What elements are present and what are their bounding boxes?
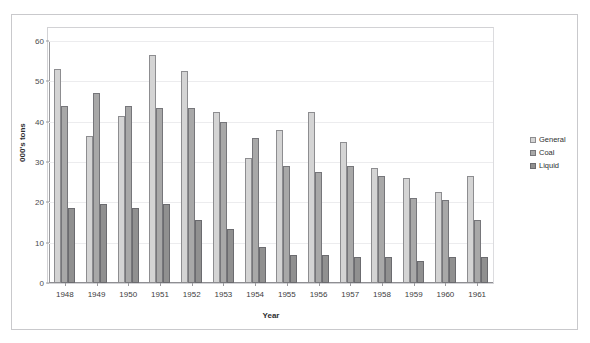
bar-general-1959[interactable]: [403, 178, 410, 283]
bar-group-bars: [303, 41, 335, 283]
bar-liquid-1960[interactable]: [449, 257, 456, 283]
legend-swatch-icon-liquid: [530, 163, 536, 169]
bar-general-1956[interactable]: [308, 112, 315, 283]
bar-general-1957[interactable]: [340, 142, 347, 283]
y-tick-label: 30: [35, 158, 44, 167]
chart-legend: GeneralCoalLiquid: [527, 131, 575, 174]
x-tick-mark: [192, 283, 193, 286]
bar-coal-1961[interactable]: [474, 220, 481, 283]
bar-coal-1955[interactable]: [283, 166, 290, 283]
x-tick-label-1954: 1954: [246, 290, 264, 299]
x-tick-mark: [128, 283, 129, 286]
bar-general-1955[interactable]: [276, 130, 283, 283]
bar-coal-1957[interactable]: [347, 166, 354, 283]
bar-coal-1952[interactable]: [188, 108, 195, 283]
bar-group-bars: [239, 41, 271, 283]
x-tick-label-1955: 1955: [278, 290, 296, 299]
x-tick-mark: [65, 283, 66, 286]
bar-coal-1948[interactable]: [61, 106, 68, 283]
bar-group: 1949: [81, 41, 113, 283]
bar-group-bars: [430, 41, 462, 283]
legend-item-liquid[interactable]: Liquid: [530, 161, 572, 170]
bar-group-bars: [112, 41, 144, 283]
bar-general-1958[interactable]: [371, 168, 378, 283]
bar-general-1960[interactable]: [435, 192, 442, 283]
bar-group: 1951: [144, 41, 176, 283]
bar-coal-1956[interactable]: [315, 172, 322, 283]
plot-area: 0102030405060194819491950195119521953195…: [49, 41, 493, 283]
x-tick-mark: [255, 283, 256, 286]
bar-group: 1948: [49, 41, 81, 283]
bar-general-1950[interactable]: [118, 116, 125, 283]
bar-group-bars: [334, 41, 366, 283]
bar-general-1951[interactable]: [149, 55, 156, 283]
bar-general-1953[interactable]: [213, 112, 220, 283]
bar-coal-1949[interactable]: [93, 93, 100, 283]
bar-coal-1951[interactable]: [156, 108, 163, 283]
bar-group: 1954: [239, 41, 271, 283]
bar-coal-1950[interactable]: [125, 106, 132, 283]
bar-general-1954[interactable]: [245, 158, 252, 283]
bar-liquid-1959[interactable]: [417, 261, 424, 283]
x-tick-mark: [97, 283, 98, 286]
x-tick-mark: [319, 283, 320, 286]
bar-group-bars: [176, 41, 208, 283]
x-tick-mark: [160, 283, 161, 286]
x-tick-label-1952: 1952: [183, 290, 201, 299]
legend-label-coal: Coal: [539, 148, 554, 157]
bar-coal-1953[interactable]: [220, 122, 227, 283]
x-tick-mark: [382, 283, 383, 286]
x-tick-label-1961: 1961: [468, 290, 486, 299]
y-tick-label: 0: [40, 279, 44, 288]
bar-liquid-1950[interactable]: [132, 208, 139, 283]
y-tick-label: 60: [35, 37, 44, 46]
bar-group: 1957: [334, 41, 366, 283]
bar-liquid-1957[interactable]: [354, 257, 361, 283]
bar-liquid-1951[interactable]: [163, 204, 170, 283]
legend-item-general[interactable]: General: [530, 135, 572, 144]
bar-group: 1958: [366, 41, 398, 283]
bar-group-bars: [398, 41, 430, 283]
x-tick-mark: [445, 283, 446, 286]
bar-liquid-1958[interactable]: [385, 257, 392, 283]
x-tick-label-1950: 1950: [119, 290, 137, 299]
x-tick-label-1958: 1958: [373, 290, 391, 299]
bar-liquid-1961[interactable]: [481, 257, 488, 283]
bar-liquid-1948[interactable]: [68, 208, 75, 283]
bar-liquid-1953[interactable]: [227, 229, 234, 283]
bar-coal-1959[interactable]: [410, 198, 417, 283]
bar-liquid-1949[interactable]: [100, 204, 107, 283]
bar-liquid-1955[interactable]: [290, 255, 297, 283]
y-tick-label: 10: [35, 238, 44, 247]
bar-group: 1953: [208, 41, 240, 283]
x-tick-label-1951: 1951: [151, 290, 169, 299]
bar-coal-1958[interactable]: [378, 176, 385, 283]
x-tick-label-1956: 1956: [310, 290, 328, 299]
y-tick-label: 40: [35, 117, 44, 126]
y-axis-title: 000's tons: [18, 123, 27, 162]
bar-liquid-1954[interactable]: [259, 247, 266, 283]
x-tick-label-1953: 1953: [215, 290, 233, 299]
bar-group: 1955: [271, 41, 303, 283]
top-caption-strip: [0, 0, 590, 8]
x-tick-mark: [287, 283, 288, 286]
x-axis-title: Year: [49, 311, 493, 320]
bar-general-1961[interactable]: [467, 176, 474, 283]
bar-group-bars: [366, 41, 398, 283]
x-tick-label-1957: 1957: [341, 290, 359, 299]
x-tick-label-1959: 1959: [405, 290, 423, 299]
bar-general-1948[interactable]: [54, 69, 61, 283]
legend-item-coal[interactable]: Coal: [530, 148, 572, 157]
x-tick-label-1948: 1948: [56, 290, 74, 299]
legend-label-general: General: [539, 135, 566, 144]
bar-general-1949[interactable]: [86, 136, 93, 283]
bar-coal-1954[interactable]: [252, 138, 259, 283]
bar-liquid-1952[interactable]: [195, 220, 202, 283]
y-tick-label: 20: [35, 198, 44, 207]
bar-group-bars: [271, 41, 303, 283]
bar-coal-1960[interactable]: [442, 200, 449, 283]
bar-liquid-1956[interactable]: [322, 255, 329, 283]
x-tick-label-1960: 1960: [437, 290, 455, 299]
x-tick-label-1949: 1949: [88, 290, 106, 299]
bar-general-1952[interactable]: [181, 71, 188, 283]
